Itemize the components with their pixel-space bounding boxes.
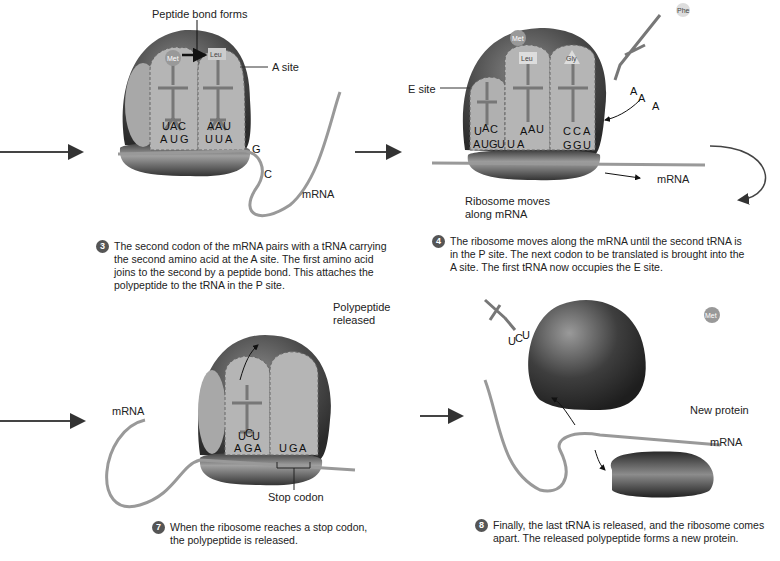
svg-text:A: A (520, 125, 528, 137)
label-mrna-3: mRNA (302, 188, 334, 200)
svg-text:C: C (563, 125, 571, 137)
svg-text:U: U (522, 329, 530, 341)
svg-text:A: A (170, 120, 178, 132)
svg-text:A: A (160, 133, 168, 145)
panel-step-7: UCU AGA UGA (0, 335, 355, 507)
svg-text:U: U (162, 120, 170, 132)
svg-text:A: A (652, 100, 660, 112)
step-badge: 4 (432, 235, 445, 248)
svg-text:C: C (490, 123, 498, 135)
svg-text:U: U (497, 138, 505, 150)
panel-step-8: UCU Met (420, 300, 720, 498)
svg-text:U: U (205, 133, 213, 145)
panel-step-4: Met Leu Gly Phe UAC AAU CCA AUG UUA GGU … (355, 3, 765, 200)
svg-text:Met: Met (705, 312, 717, 319)
label-ribosome-moves-1: Ribosome moves (465, 195, 550, 207)
svg-text:G: G (289, 442, 298, 454)
label-polypeptide-released-2: released (333, 314, 375, 326)
svg-text:C: C (178, 120, 186, 132)
svg-text:G: G (573, 139, 582, 151)
label-new-protein: New protein (690, 404, 749, 416)
label-peptide-bond: Peptide bond forms (152, 8, 247, 20)
label-stop-codon: Stop codon (268, 491, 324, 503)
svg-text:Met: Met (512, 35, 524, 42)
caption-step-3: 3 The second codon of the mRNA pairs wit… (96, 240, 387, 292)
svg-text:G: G (563, 139, 572, 151)
label-ribosome-moves-2: along mRNA (465, 208, 527, 220)
ribosome-large-subunit (528, 300, 645, 410)
label-mrna-4: mRNA (657, 173, 689, 185)
label-e-site: E site (408, 83, 436, 95)
svg-text:Leu: Leu (521, 55, 533, 62)
label-a-site: A site (272, 61, 299, 73)
step-badge: 7 (152, 521, 165, 534)
label-mrna-8: mRNA (710, 436, 742, 448)
svg-text:A: A (299, 442, 307, 454)
caption-step-8: 8 Finally, the last tRNA is released, an… (475, 519, 764, 545)
svg-text:A: A (473, 138, 481, 150)
caption-step-4: 4 The ribosome moves along the mRNA unti… (432, 235, 744, 274)
svg-text:A: A (254, 442, 262, 454)
label-mrna-7: mRNA (112, 405, 144, 417)
svg-text:U: U (279, 442, 287, 454)
svg-text:U: U (536, 123, 544, 135)
svg-text:A: A (583, 125, 591, 137)
svg-text:G: G (252, 143, 261, 155)
svg-text:A: A (234, 442, 242, 454)
step-badge: 3 (96, 240, 109, 253)
svg-text:C: C (264, 168, 272, 180)
svg-text:A: A (207, 120, 215, 132)
label-polypeptide-released-1: Polypeptide (333, 301, 391, 313)
svg-text:A: A (528, 123, 536, 135)
step-badge: 8 (475, 519, 488, 532)
curved-arrow-icon (710, 146, 765, 200)
svg-text:U: U (474, 125, 482, 137)
svg-text:U: U (507, 138, 515, 150)
svg-text:U: U (252, 430, 260, 442)
svg-text:U: U (583, 139, 591, 151)
svg-text:Phe: Phe (677, 7, 690, 14)
panel-step-3: Met Leu UAC AAU AUG UUA GC (0, 20, 340, 216)
svg-text:U: U (215, 133, 223, 145)
svg-text:Leu: Leu (210, 51, 222, 58)
svg-text:C: C (573, 125, 581, 137)
svg-text:Gly: Gly (566, 55, 577, 63)
svg-text:G: G (180, 133, 189, 145)
caption-step-7: 7 When the ribosome reaches a stop codon… (152, 521, 367, 547)
svg-text:A: A (638, 92, 646, 104)
ribosome-small-subunit (611, 452, 714, 498)
svg-text:U: U (481, 138, 489, 150)
svg-text:A: A (225, 133, 233, 145)
svg-text:A: A (215, 120, 223, 132)
svg-text:A: A (482, 122, 490, 134)
svg-text:U: U (170, 133, 178, 145)
svg-text:U: U (223, 120, 231, 132)
svg-text:A: A (517, 138, 525, 150)
svg-text:A: A (630, 85, 638, 97)
svg-text:Met: Met (167, 55, 179, 62)
svg-text:G: G (244, 442, 253, 454)
